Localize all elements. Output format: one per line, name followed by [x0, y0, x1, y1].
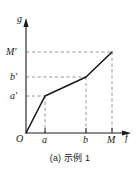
- y-axis-label: g: [17, 13, 22, 24]
- y-axis: [23, 18, 28, 133]
- origin-label: O: [16, 133, 23, 144]
- figure-caption: (a) 示例 1: [0, 152, 140, 164]
- function-plot: g f O a' b' M' a b M: [0, 0, 140, 175]
- y-tick-label-m-prime: M': [5, 46, 17, 57]
- y-tick-label-a-prime: a': [10, 90, 18, 101]
- curve-g-of-f: [26, 52, 112, 133]
- x-axis-ticks: [45, 128, 112, 133]
- x-tick-label-a: a: [42, 134, 47, 145]
- x-tick-label-m: M: [106, 134, 116, 145]
- y-tick-label-b-prime: b': [10, 71, 18, 82]
- figure-container: g f O a' b' M' a b M (a) 示例 1: [0, 0, 140, 175]
- y-axis-arrow-icon: [23, 18, 28, 27]
- x-tick-label-b: b: [83, 134, 88, 145]
